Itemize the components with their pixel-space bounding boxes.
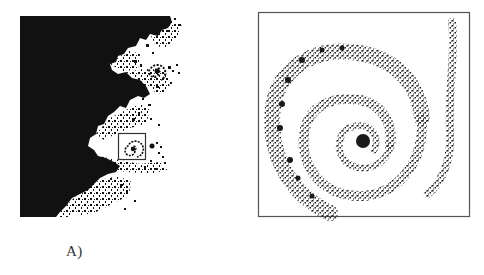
- panel-a-label: A): [66, 243, 83, 260]
- panel-b: B): [242, 0, 484, 275]
- mandelbrot-overview-image: [0, 0, 242, 275]
- panel-a: A): [0, 0, 242, 275]
- spiral-detail-image: [242, 0, 484, 275]
